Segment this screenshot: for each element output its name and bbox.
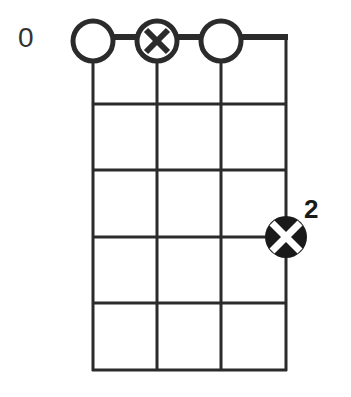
open-string-marker <box>73 21 113 61</box>
fretboard-grid <box>92 37 288 371</box>
finger-number-label: 2 <box>304 194 318 224</box>
start-fret-label: 0 <box>18 22 34 53</box>
muted-string-marker <box>137 21 177 61</box>
open-string-marker <box>201 21 241 61</box>
markers <box>73 21 307 258</box>
chord-diagram: 0 2 <box>0 0 351 397</box>
open-circle <box>73 21 113 61</box>
finger-marker <box>265 216 307 258</box>
open-circle <box>201 21 241 61</box>
